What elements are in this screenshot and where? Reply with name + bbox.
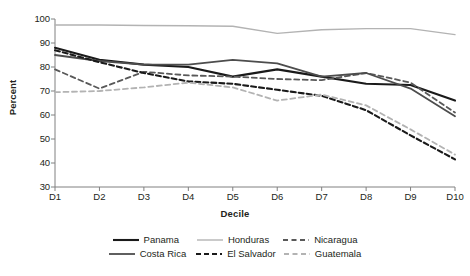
legend-item-nicaragua[interactable]: Nicaragua <box>283 234 357 245</box>
legend-item-costa-rica[interactable]: Costa Rica <box>109 248 186 259</box>
series-line <box>55 69 455 112</box>
legend-row: Costa RicaEl SalvadorGuatemala <box>109 248 362 259</box>
x-tick-label: D4 <box>168 191 208 202</box>
y-tick-label: 50 <box>24 134 50 144</box>
legend-label: Panama <box>144 234 179 245</box>
legend-swatch-icon <box>196 249 222 259</box>
y-tick-label: 60 <box>24 110 50 120</box>
y-tick-label: 70 <box>24 86 50 96</box>
y-tick-label: 100 <box>24 14 50 24</box>
y-axis-ticks <box>51 19 55 187</box>
x-tick-label: D10 <box>435 191 470 202</box>
x-tick-label: D1 <box>35 191 75 202</box>
legend-label: Guatemala <box>315 248 361 259</box>
x-tick-label: D7 <box>302 191 342 202</box>
y-axis-title: Percent <box>7 62 18 134</box>
legend-row: PanamaHondurasNicaragua <box>113 234 358 245</box>
chart-legend: PanamaHondurasNicaraguaCosta RicaEl Salv… <box>0 234 470 259</box>
x-tick-label: D8 <box>346 191 386 202</box>
series-line <box>55 50 455 159</box>
legend-label: El Salvador <box>227 248 276 259</box>
legend-label: Nicaragua <box>314 234 357 245</box>
legend-item-guatemala[interactable]: Guatemala <box>284 248 361 259</box>
legend-item-honduras[interactable]: Honduras <box>197 234 269 245</box>
legend-item-panama[interactable]: Panama <box>113 234 179 245</box>
x-tick-label: D3 <box>124 191 164 202</box>
axis-lines <box>55 19 455 187</box>
x-tick-label: D2 <box>79 191 119 202</box>
legend-swatch-icon <box>109 249 135 259</box>
legend-swatch-icon <box>113 235 139 245</box>
series-line <box>55 25 455 35</box>
legend-label: Costa Rica <box>140 248 186 259</box>
series-line <box>55 48 455 101</box>
legend-swatch-icon <box>283 235 309 245</box>
x-tick-label: D9 <box>391 191 431 202</box>
x-axis-tick-labels: D1D2D3D4D5D6D7D8D9D10 <box>55 191 455 205</box>
legend-item-el-salvador[interactable]: El Salvador <box>196 248 276 259</box>
x-axis-title: Decile <box>0 208 470 219</box>
series-line <box>55 83 455 155</box>
legend-label: Honduras <box>228 234 269 245</box>
x-tick-label: D6 <box>257 191 297 202</box>
y-tick-label: 80 <box>24 62 50 72</box>
legend-swatch-icon <box>197 235 223 245</box>
x-tick-label: D5 <box>213 191 253 202</box>
chart-figure: 10090807060504030 Percent D1D2D3D4D5D6D7… <box>0 0 470 276</box>
y-tick-label: 90 <box>24 38 50 48</box>
y-tick-label: 40 <box>24 158 50 168</box>
legend-swatch-icon <box>284 249 310 259</box>
